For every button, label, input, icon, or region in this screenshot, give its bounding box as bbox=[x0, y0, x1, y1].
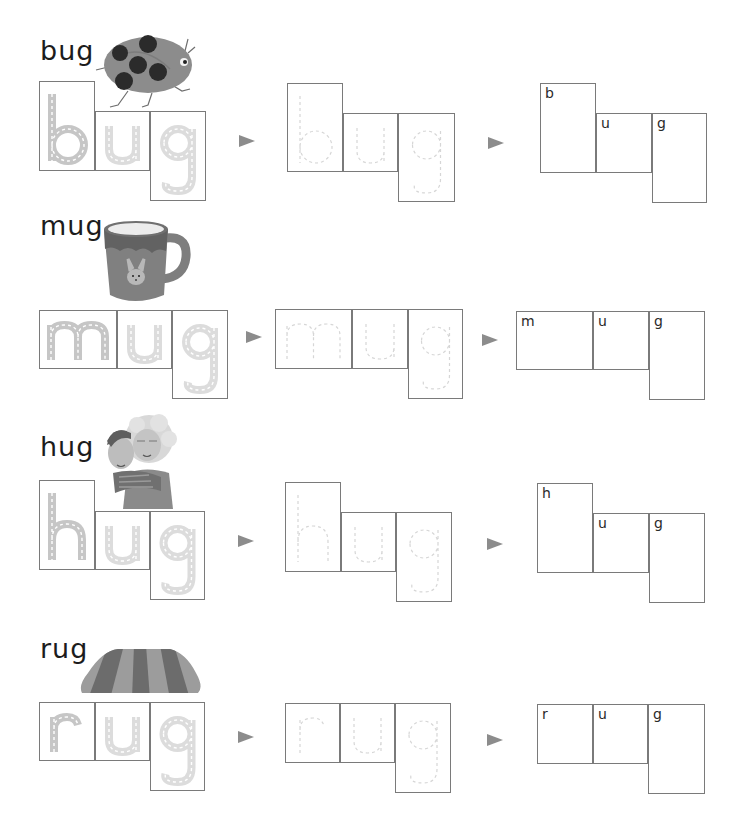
letter-hint: h bbox=[542, 486, 551, 500]
trace-box-m[interactable] bbox=[275, 309, 352, 369]
trace-box-r[interactable] bbox=[285, 703, 340, 763]
write-box-u[interactable]: u bbox=[593, 704, 648, 764]
word-title-bug: bug bbox=[40, 37, 94, 64]
write-box-g[interactable]: g bbox=[649, 311, 705, 400]
trace-box-b[interactable] bbox=[287, 83, 343, 172]
finger-trace-box-b bbox=[39, 81, 95, 171]
ladybug-illustration bbox=[90, 25, 205, 110]
write-box-u[interactable]: u bbox=[593, 311, 649, 370]
trace-box-g[interactable] bbox=[395, 703, 451, 793]
finger-trace-box-h bbox=[39, 480, 95, 570]
rug-illustration bbox=[78, 645, 204, 699]
write-box-u[interactable]: u bbox=[596, 113, 652, 173]
letter-hint: r bbox=[542, 707, 548, 721]
trace-box-h[interactable] bbox=[285, 482, 341, 572]
write-box-h[interactable]: h bbox=[537, 483, 593, 573]
letter-hint: g bbox=[657, 116, 666, 130]
letter-hint: g bbox=[654, 314, 663, 328]
arrow-right-icon bbox=[482, 334, 498, 346]
trace-box-u[interactable] bbox=[340, 703, 395, 763]
finger-trace-box-g bbox=[150, 111, 206, 201]
finger-trace-box-u bbox=[95, 702, 150, 761]
finger-trace-box-g bbox=[172, 310, 228, 399]
trace-box-g[interactable] bbox=[408, 309, 463, 399]
finger-trace-box-r bbox=[39, 702, 95, 761]
write-box-u[interactable]: u bbox=[593, 513, 649, 573]
finger-trace-box-g bbox=[150, 702, 205, 791]
word-title-hug: hug bbox=[40, 433, 94, 460]
word-title-mug: mug bbox=[40, 212, 104, 239]
letter-hint: u bbox=[601, 116, 610, 130]
arrow-right-icon bbox=[238, 731, 254, 743]
arrow-right-icon bbox=[239, 135, 255, 147]
write-box-r[interactable]: r bbox=[537, 704, 593, 764]
trace-box-u[interactable] bbox=[341, 512, 396, 572]
arrow-right-icon bbox=[246, 331, 262, 343]
arrow-right-icon bbox=[487, 734, 503, 746]
mug-illustration bbox=[100, 215, 192, 307]
trace-box-u[interactable] bbox=[343, 113, 398, 172]
letter-hint: u bbox=[598, 314, 607, 328]
letter-hint: m bbox=[521, 314, 535, 328]
finger-trace-box-m bbox=[39, 310, 117, 369]
write-box-g[interactable]: g bbox=[652, 113, 707, 203]
arrow-right-icon bbox=[238, 535, 254, 547]
letter-hint: u bbox=[598, 707, 607, 721]
write-box-m[interactable]: m bbox=[516, 311, 593, 370]
letter-hint: g bbox=[653, 707, 662, 721]
letter-hint: b bbox=[545, 86, 554, 100]
letter-hint: u bbox=[598, 516, 607, 530]
letter-hint: g bbox=[654, 516, 663, 530]
write-box-b[interactable]: b bbox=[540, 83, 596, 173]
arrow-right-icon bbox=[487, 538, 503, 550]
write-box-g[interactable]: g bbox=[648, 704, 705, 794]
trace-box-g[interactable] bbox=[396, 512, 452, 602]
finger-trace-box-u bbox=[95, 111, 150, 171]
finger-trace-box-u bbox=[95, 511, 150, 570]
hug-illustration bbox=[97, 411, 182, 511]
trace-box-u[interactable] bbox=[352, 309, 408, 369]
trace-box-g[interactable] bbox=[398, 113, 455, 202]
arrow-right-icon bbox=[488, 137, 504, 149]
finger-trace-box-u bbox=[117, 310, 172, 369]
write-box-g[interactable]: g bbox=[649, 513, 705, 603]
finger-trace-box-g bbox=[150, 511, 205, 600]
